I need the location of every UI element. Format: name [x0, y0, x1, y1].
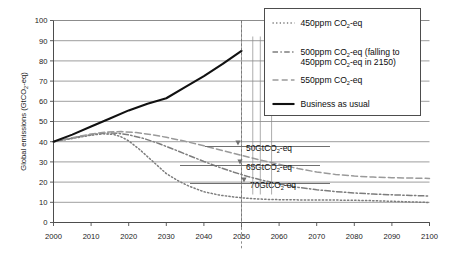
- ytick-label-30: 30: [39, 158, 47, 167]
- legend-item-1[interactable]: 500ppm CO2-eq (falling to450ppm CO2-eq i…: [301, 47, 400, 68]
- legend-item-label-3: Business as usual: [301, 99, 370, 109]
- xtick-label-2030: 2030: [158, 232, 175, 241]
- ytick-label-60: 60: [39, 97, 47, 106]
- xtick-label-2090: 2090: [383, 232, 400, 241]
- y-axis-title: Global emissions (GtCO2-eq): [19, 72, 29, 171]
- annotation-arrow-0: [235, 141, 240, 146]
- legend-item-3[interactable]: Business as usual: [301, 99, 370, 109]
- ytick-label-100: 100: [35, 16, 48, 25]
- legend-item-2[interactable]: 550ppm CO2-eq: [301, 75, 363, 86]
- ytick-label-0: 0: [43, 218, 47, 227]
- ytick-label-10: 10: [39, 198, 47, 207]
- xtick-label-2010: 2010: [83, 232, 100, 241]
- ytick-label-50: 50: [39, 117, 47, 126]
- xtick-label-2040: 2040: [195, 232, 212, 241]
- xtick-label-2070: 2070: [308, 232, 325, 241]
- xtick-label-2100: 2100: [421, 232, 438, 241]
- legend-item-label-2: 550ppm CO2-eq: [301, 75, 363, 86]
- xtick-label-2060: 2060: [271, 232, 288, 241]
- legend-group: 450ppm CO2-eq500ppm CO2-eq (falling to45…: [265, 9, 421, 116]
- ytick-label-80: 80: [39, 57, 47, 66]
- xtick-label-2020: 2020: [120, 232, 137, 241]
- ytick-label-70: 70: [39, 77, 47, 86]
- legend-item-label-0: 450ppm CO2-eq: [301, 18, 363, 29]
- series-line-3: [54, 51, 242, 142]
- emissions-pathways-chart: 0102030405060708090100200020102020203020…: [0, 0, 453, 253]
- annotation-label-2: 70GtCO2-eq: [250, 180, 296, 191]
- chart-canvas: 0102030405060708090100200020102020203020…: [0, 0, 453, 253]
- ytick-label-90: 90: [39, 37, 47, 46]
- xtick-label-2000: 2000: [45, 232, 62, 241]
- ytick-label-20: 20: [39, 178, 47, 187]
- xtick-label-2080: 2080: [346, 232, 363, 241]
- legend-item-0[interactable]: 450ppm CO2-eq: [301, 18, 363, 29]
- ytick-label-40: 40: [39, 138, 47, 147]
